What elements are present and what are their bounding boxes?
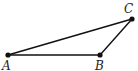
point-b	[97, 52, 102, 57]
label-b: B	[94, 59, 104, 71]
label-c: C	[124, 2, 133, 16]
point-a	[5, 52, 10, 57]
segment-bc	[100, 19, 132, 55]
point-c	[129, 16, 134, 21]
segment-ac	[8, 19, 132, 55]
label-a: A	[1, 59, 11, 71]
triangle-diagram: A B C	[0, 0, 138, 71]
